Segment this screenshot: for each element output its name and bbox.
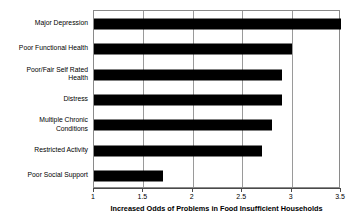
- category-label: Major Depression: [0, 19, 88, 27]
- x-axis-tick-label: 3: [289, 192, 293, 201]
- x-axis-tick-label: 1.5: [138, 192, 148, 201]
- bar: [94, 120, 272, 131]
- category-label: Distress: [0, 95, 88, 103]
- plot-area: [93, 10, 340, 188]
- bar: [94, 95, 282, 106]
- bar: [94, 171, 163, 182]
- x-axis-title: Increased Odds of Problems in Food Insuf…: [93, 204, 340, 214]
- x-axis-line: [93, 188, 340, 189]
- category-label: Poor Social Support: [0, 171, 88, 179]
- x-axis-tick-label: 2.5: [236, 192, 246, 201]
- bar: [94, 18, 341, 29]
- x-axis-tick-label: 3.5: [335, 192, 345, 201]
- bar: [94, 44, 292, 55]
- category-label: Multiple Chronic Conditions: [0, 116, 88, 132]
- bar-chart: Major DepressionPoor Functional HealthPo…: [0, 0, 359, 224]
- category-label: Restricted Activity: [0, 146, 88, 154]
- x-axis-tick-label: 1: [91, 192, 95, 201]
- category-axis: Major DepressionPoor Functional HealthPo…: [0, 10, 90, 188]
- x-axis-tick-label: 2: [190, 192, 194, 201]
- category-label: Poor/Fair Self Rated Health: [0, 65, 88, 81]
- bar: [94, 145, 262, 156]
- category-label: Poor Functional Health: [0, 44, 88, 52]
- gridline: [292, 11, 293, 187]
- bar: [94, 69, 282, 80]
